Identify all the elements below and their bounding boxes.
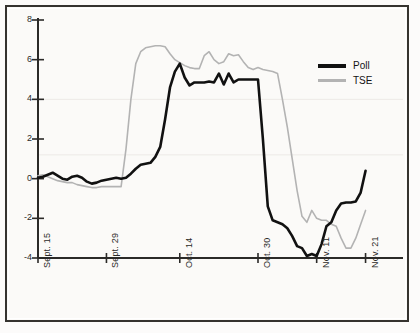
legend-label-poll: Poll bbox=[353, 61, 370, 71]
line-chart-canvas bbox=[0, 0, 420, 333]
legend-label-tse: TSE bbox=[353, 76, 372, 86]
y-tick-label: -4 bbox=[10, 252, 32, 262]
data-series-group bbox=[38, 46, 366, 256]
x-tick-label: Sept. 29 bbox=[110, 233, 120, 268]
x-tick-label: Nov. 11 bbox=[321, 237, 331, 268]
chart-legend: Poll TSE bbox=[318, 58, 372, 88]
legend-swatch-poll-icon bbox=[318, 64, 346, 68]
axis-lines bbox=[38, 18, 403, 258]
x-tick-label: Sept. 15 bbox=[42, 233, 52, 268]
x-tick-label: Oct. 30 bbox=[262, 238, 272, 268]
faint-guide-lines bbox=[38, 99, 403, 155]
y-tick-label: 2 bbox=[10, 133, 32, 143]
y-tick-label: 0 bbox=[10, 173, 32, 183]
legend-item-poll: Poll bbox=[318, 58, 372, 73]
y-tick-label: -2 bbox=[10, 212, 32, 222]
y-tick-label: 8 bbox=[10, 14, 32, 24]
y-tick-label: 6 bbox=[10, 54, 32, 64]
chart-figure: 86420-2-4 Sept. 15Sept. 29Oct. 14Oct. 30… bbox=[0, 0, 420, 333]
x-tick-label: Nov. 21 bbox=[370, 236, 380, 268]
x-tick-label: Oct. 14 bbox=[184, 238, 194, 268]
y-tick-label: 4 bbox=[10, 93, 32, 103]
legend-swatch-tse-icon bbox=[318, 79, 346, 82]
legend-item-tse: TSE bbox=[318, 73, 372, 88]
